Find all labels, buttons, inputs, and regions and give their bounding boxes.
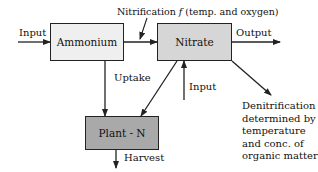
denitrification-arrow — [232, 61, 271, 95]
nitrification-pointer-arrow — [140, 18, 147, 39]
denitrification-label: Denitrification determined by temperatur… — [242, 100, 318, 163]
nitrate-to-plant-arrow — [141, 61, 177, 116]
harvest-label: Harvest — [124, 152, 164, 163]
plant-n-box: Plant - N — [85, 116, 159, 150]
uptake-label: Uptake — [114, 72, 151, 83]
input-left-label: Input — [19, 27, 46, 38]
nitrate-box: Nitrate — [157, 23, 232, 61]
nitrification-prefix: Nitrification — [117, 6, 179, 17]
plant-n-label: Plant - N — [98, 127, 145, 139]
lower-input-label: Input — [189, 81, 216, 92]
ammonium-label: Ammonium — [57, 36, 118, 48]
output-label: Output — [236, 27, 272, 38]
nitrogen-flow-diagram: Ammonium Nitrate Plant - N Input Nitrifi… — [0, 0, 318, 172]
nitrification-suffix: (temp. and oxygen) — [182, 6, 278, 17]
nitrification-label: Nitrification f (temp. and oxygen) — [117, 6, 278, 17]
nitrate-label: Nitrate — [175, 36, 213, 48]
ammonium-box: Ammonium — [50, 23, 124, 61]
